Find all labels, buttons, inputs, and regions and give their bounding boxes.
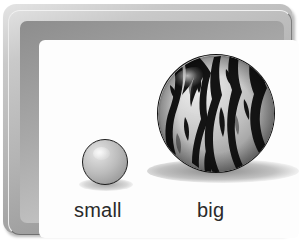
- size-comparison-card: small big: [0, 0, 302, 243]
- small-ball-highlight: [93, 147, 110, 160]
- card-canvas: small big: [39, 40, 299, 238]
- big-ball[interactable]: [157, 54, 275, 173]
- small-ball[interactable]: [82, 139, 128, 185]
- big-ball-label: big: [197, 199, 224, 222]
- card-frame-inner-bevel: small big: [20, 21, 284, 223]
- card-frame-outer: small big: [3, 4, 293, 234]
- small-ball-label: small: [74, 199, 122, 222]
- watermelon-stripes-icon: [158, 55, 275, 173]
